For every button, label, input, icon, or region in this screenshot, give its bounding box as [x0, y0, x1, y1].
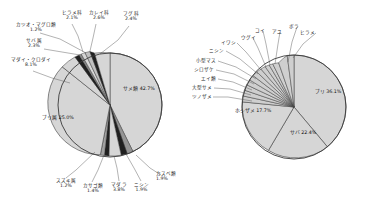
- right-inner-label-hoshizame: ホシザメ 17.7%: [234, 108, 272, 114]
- left-callout-kasube-rui: カスベ類 1.9%: [156, 171, 190, 182]
- right-callout-eirui: エイ類: [186, 76, 216, 81]
- right-callout-tsunozame: ツノザメ: [182, 94, 212, 99]
- right-callout-hirame: ヒラメ: [300, 30, 322, 35]
- left-callout-karei-ka: カレイ科 2.6%: [80, 10, 118, 21]
- left-callout-nishin: ニシン 1.9%: [128, 182, 155, 193]
- left-callout-katsuo-maguro: カツオ・マグロ類 1.2%: [6, 22, 66, 33]
- right-inner-label-buri: ブリ 36.1%: [313, 89, 343, 95]
- right-callout-nishin: ニシン: [198, 48, 224, 53]
- left-callout-fugu-ka: フグ科 2.4%: [116, 11, 146, 22]
- left-pie-sectors: [48, 52, 162, 157]
- right-pie-sectors: [242, 55, 346, 159]
- right-callout-koi: コイ: [248, 28, 265, 33]
- left-inner-label-same-rui: サメ類 42.7%: [122, 86, 156, 92]
- right-callout-shirozake: シロザケ: [184, 67, 214, 72]
- right-callout-ayu: アユ: [265, 29, 282, 34]
- right-callout-ogatasame: 大型サメ: [182, 85, 212, 90]
- right-callout-ugui: ウグイ: [230, 35, 256, 40]
- left-callout-madai-kurodai: マダイ・クロダイ 8.1%: [1, 57, 61, 68]
- left-inner-label-buri-zoku: ブリ属 25.0%: [41, 115, 75, 121]
- left-callout-saba-zoku: サバ属 2.3%: [17, 38, 51, 49]
- right-inner-label-saba: サバ 22.4%: [288, 130, 318, 136]
- right-callout-bora: ボラ: [282, 24, 299, 29]
- right-callout-kogatamasu: 小型マス: [186, 58, 216, 63]
- right-callout-iwashi: イワシ: [210, 40, 236, 45]
